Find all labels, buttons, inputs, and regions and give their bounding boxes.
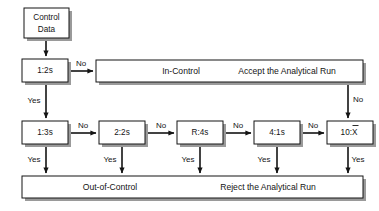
connector-layer: [46, 38, 348, 173]
edge-label-yes-r-4s: Yes: [181, 155, 194, 164]
in-control-bar: In-Control Accept the Analytical Run: [96, 60, 366, 85]
control-data-label-line1: Control: [33, 13, 60, 22]
edge-label-yes-4-1s: Yes: [257, 155, 270, 164]
out-of-control-label: Out-of-Control: [83, 182, 138, 192]
edge-label-no-1-3s-2-2s: No: [78, 121, 89, 130]
rule-4-1s-label: 4:1s: [269, 128, 284, 137]
flowchart-container: In-Control Accept the Analytical Run Out…: [0, 0, 379, 211]
reject-analytical-run-label: Reject the Analytical Run: [220, 182, 316, 192]
out-of-control-bar: Out-of-Control Reject the Analytical Run: [22, 176, 366, 201]
rule-r-4s-label: R:4s: [192, 128, 209, 137]
edge-label-no-r-4s-4-1s: No: [233, 121, 244, 130]
rule-2-2s-label: 2:2s: [114, 128, 129, 137]
edge-label-yes-2-2s: Yes: [103, 155, 116, 164]
rule-1-3s-label: 1:3s: [37, 128, 52, 137]
edge-label-no-1-2s: No: [76, 59, 87, 68]
rule-node-2-2s: 2:2s: [99, 121, 148, 147]
rule-node-1-2s: 1:2s: [22, 59, 71, 85]
edge-label-yes-1-3s: Yes: [27, 155, 40, 164]
edge-label-no-4-1s-10-xbar: No: [308, 121, 319, 130]
rule-node-4-1s: 4:1s: [254, 121, 303, 147]
rule-1-2s-label: 1:2s: [37, 66, 52, 75]
edge-label-yes-10-xbar: Yes: [351, 155, 364, 164]
rule-10-xbar-label: 10:X: [341, 128, 358, 137]
control-data-label-line2: Data: [38, 25, 56, 34]
rule-node-1-3s: 1:3s: [22, 121, 71, 147]
rule-node-10-xbar: 10:X: [327, 121, 376, 147]
edge-label-yes-1-2s: Yes: [27, 96, 40, 105]
edge-label-no-2-2s-r-4s: No: [156, 121, 167, 130]
edge-label-no-accept-down: No: [353, 95, 364, 104]
in-control-label: In-Control: [162, 66, 200, 76]
flowchart-svg: In-Control Accept the Analytical Run Out…: [0, 0, 379, 211]
accept-analytical-run-label: Accept the Analytical Run: [238, 66, 336, 76]
control-data-node: Control Data: [24, 8, 72, 41]
rule-node-r-4s: R:4s: [177, 121, 226, 147]
